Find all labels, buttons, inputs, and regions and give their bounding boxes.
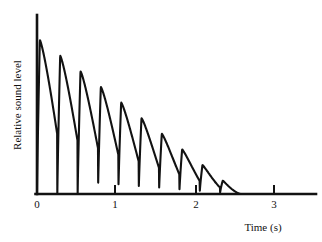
chart-canvas: 0 1 2 3 Time (s) Relative sound level [0,0,322,242]
x-tick-label-1: 1 [112,198,118,210]
x-tick-label-2: 2 [193,198,199,210]
x-tick-label-0: 0 [34,198,40,210]
x-tick-label-3: 3 [271,198,277,210]
x-axis-title: Time (s) [244,221,282,234]
sound-level-decay-chart: 0 1 2 3 Time (s) Relative sound level [0,0,322,242]
damped-oscillation-curve [37,40,240,194]
x-tick-labels: 0 1 2 3 [34,198,277,210]
y-axis-title: Relative sound level [11,60,23,150]
